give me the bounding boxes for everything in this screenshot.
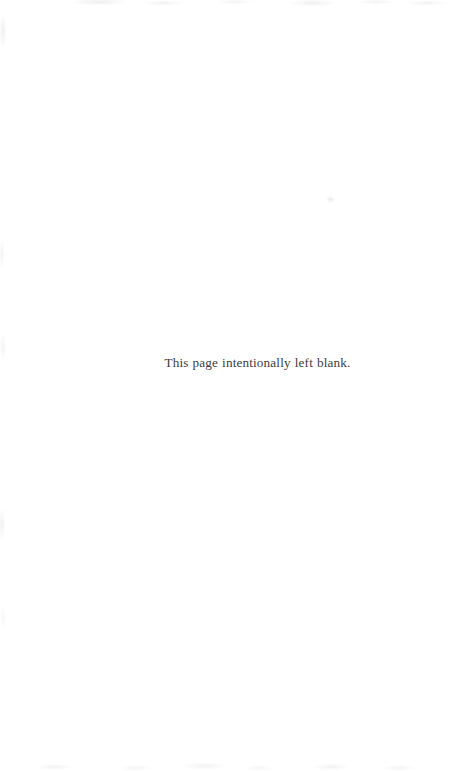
scanned-page: This page intentionally left blank. bbox=[0, 0, 453, 771]
scan-speckle-bottom-artifact bbox=[0, 749, 453, 771]
scan-speckle-top-artifact bbox=[0, 0, 453, 14]
scan-shading-left-artifact bbox=[0, 0, 16, 771]
intentionally-blank-notice: This page intentionally left blank. bbox=[0, 355, 453, 371]
scan-speck-icon bbox=[326, 196, 335, 203]
